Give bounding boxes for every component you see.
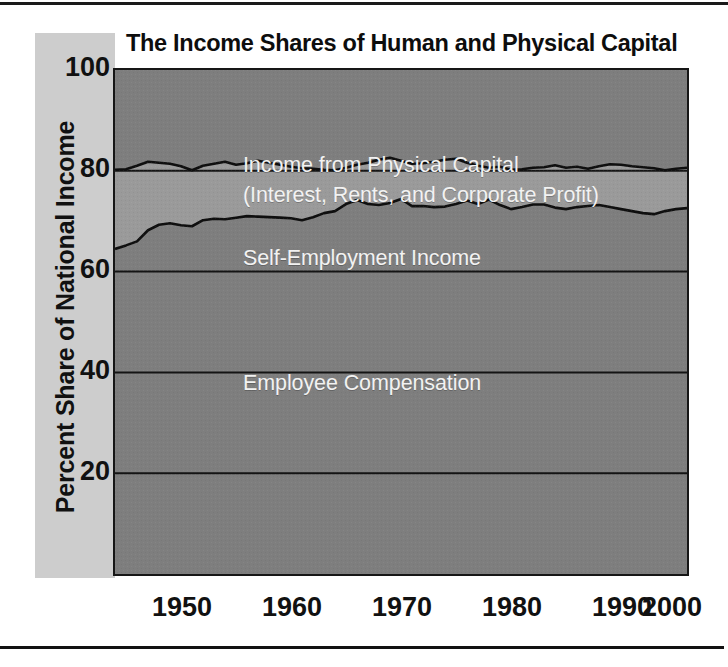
x-tick-label-1950: 1950 bbox=[122, 594, 242, 621]
y-tick-label-column: 100 80 60 40 20 bbox=[36, 0, 110, 600]
chart-title: The Income Shares of Human and Physical … bbox=[126, 30, 677, 57]
stacked-area-svg bbox=[115, 70, 687, 574]
plot-area: Income from Physical Capital (Interest, … bbox=[113, 68, 689, 576]
label-physical-line-1: Income from Physical Capital bbox=[243, 150, 599, 180]
x-tick-label-2000: 2000 bbox=[612, 594, 728, 621]
paper-grain-overlay bbox=[115, 70, 687, 574]
label-income-physical-capital: Income from Physical Capital (Interest, … bbox=[243, 150, 599, 210]
label-employee-compensation: Employee Compensation bbox=[243, 371, 481, 396]
label-physical-line-2: (Interest, Rents, and Corporate Profit) bbox=[243, 180, 599, 210]
x-tick-label-1980: 1980 bbox=[452, 594, 572, 621]
bottom-rule bbox=[0, 646, 724, 649]
x-tick-label-1970: 1970 bbox=[342, 594, 462, 621]
y-tick-label-100: 100 bbox=[40, 54, 110, 81]
x-tick-label-1960: 1960 bbox=[232, 594, 352, 621]
y-tick-label-60: 60 bbox=[40, 256, 110, 283]
y-tick-label-40: 40 bbox=[40, 357, 110, 384]
figure-canvas: Percent Share of National Income 100 80 … bbox=[0, 0, 728, 667]
label-self-employment-income: Self-Employment Income bbox=[243, 246, 481, 271]
y-tick-label-20: 20 bbox=[40, 458, 110, 485]
y-tick-label-80: 80 bbox=[40, 155, 110, 182]
